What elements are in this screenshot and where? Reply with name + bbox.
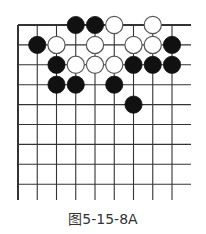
black-stone xyxy=(67,76,84,93)
white-stone xyxy=(86,36,103,53)
black-stone xyxy=(29,36,46,53)
white-stone xyxy=(48,36,65,53)
black-stone xyxy=(48,76,65,93)
white-stone xyxy=(144,16,161,33)
white-stone xyxy=(106,16,123,33)
black-stone xyxy=(106,76,123,93)
black-stone xyxy=(144,56,161,73)
figure-caption: 图5-15-8A xyxy=(0,208,206,228)
board-grid xyxy=(18,25,191,200)
black-stone xyxy=(67,16,84,33)
black-stone xyxy=(125,96,142,113)
white-stone xyxy=(144,36,161,53)
white-stone xyxy=(125,36,142,53)
black-stone xyxy=(86,16,103,33)
white-stone xyxy=(106,56,123,73)
black-stone xyxy=(163,36,180,53)
white-stone xyxy=(86,56,103,73)
black-stone xyxy=(48,56,65,73)
black-stone xyxy=(125,56,142,73)
black-stone xyxy=(163,56,180,73)
go-board-diagram xyxy=(0,0,206,205)
white-stone xyxy=(67,56,84,73)
